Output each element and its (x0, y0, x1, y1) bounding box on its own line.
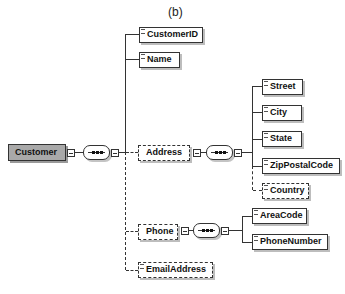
connector-line (252, 86, 262, 87)
connector-line (252, 112, 262, 113)
element-label: PhoneNumber (260, 236, 322, 246)
element-label: AreaCode (260, 210, 303, 220)
element-state[interactable]: State (262, 131, 302, 147)
connector-line-optional (126, 152, 138, 153)
element-zippostalcode[interactable]: ZipPostalCode (262, 158, 340, 174)
element-areacode[interactable]: AreaCode (252, 208, 307, 224)
diagram-title: (b) (168, 5, 183, 19)
connector-trunk-address-optional (252, 166, 253, 190)
element-type-icon (140, 264, 144, 269)
element-label: Customer (15, 147, 57, 157)
element-type-icon (264, 107, 268, 112)
connector-line-optional (126, 270, 138, 271)
element-label: City (270, 107, 287, 117)
element-type-icon (264, 133, 268, 138)
element-type-icon (254, 236, 258, 241)
element-label: State (270, 133, 292, 143)
element-customerid[interactable]: CustomerID (139, 27, 203, 43)
connector-trunk-optional (125, 152, 126, 270)
element-label: Phone (146, 226, 174, 236)
element-label: Country (270, 185, 305, 195)
connector-line (252, 139, 262, 140)
collapse-toggle-phone-sequence[interactable] (221, 227, 229, 235)
sequence-compositor-customer[interactable] (83, 145, 110, 160)
collapse-toggle-address-sequence[interactable] (234, 149, 242, 157)
collapse-toggle-customer[interactable] (67, 149, 75, 157)
connector-line (125, 34, 139, 35)
element-name[interactable]: Name (139, 52, 180, 68)
collapse-toggle-phone[interactable] (181, 227, 189, 235)
connector-trunk-phone (242, 216, 243, 242)
sequence-compositor-address[interactable] (206, 145, 233, 160)
collapse-toggle-address[interactable] (193, 149, 201, 157)
element-emailaddress[interactable]: EmailAddress (138, 262, 213, 278)
element-phone[interactable]: Phone (138, 224, 178, 240)
element-type-icon (264, 160, 268, 165)
element-type-icon (141, 29, 145, 34)
element-label: Street (270, 81, 296, 91)
element-label: EmailAddress (146, 264, 206, 274)
element-customer[interactable]: Customer (8, 144, 66, 161)
collapse-toggle-customer-sequence[interactable] (111, 149, 119, 157)
element-type-icon (264, 81, 268, 86)
connector-line (252, 166, 262, 167)
connector-line (242, 242, 252, 243)
element-type-icon (254, 210, 258, 215)
connector-trunk-address (252, 86, 253, 166)
element-phonenumber[interactable]: PhoneNumber (252, 234, 328, 250)
element-label: CustomerID (147, 29, 198, 39)
connector-line (242, 216, 252, 217)
element-label: ZipPostalCode (270, 160, 333, 170)
connector-line-optional (253, 190, 262, 191)
connector-line-optional (126, 231, 138, 232)
connector-line (229, 230, 242, 231)
element-type-icon (141, 54, 145, 59)
element-country[interactable]: Country (262, 183, 309, 199)
element-address[interactable]: Address (138, 145, 190, 161)
connector-line (125, 59, 139, 60)
connector-line (75, 152, 83, 153)
element-city[interactable]: City (262, 105, 302, 121)
element-type-icon (264, 185, 268, 190)
connector-trunk (125, 34, 126, 152)
sequence-compositor-phone[interactable] (193, 223, 220, 238)
element-label: Name (147, 54, 172, 64)
connector-line (242, 152, 252, 153)
element-label: Address (146, 147, 182, 157)
element-street[interactable]: Street (262, 79, 303, 95)
